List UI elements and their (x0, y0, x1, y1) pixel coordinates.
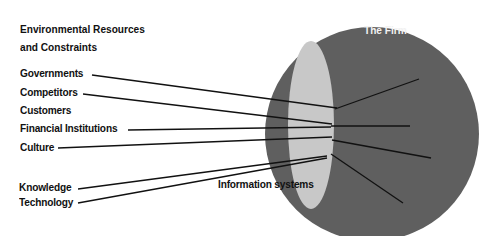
information-systems-label: Information systems (218, 178, 314, 190)
title-line-1: Environmental Resources (20, 20, 145, 38)
label-technology: Technology (19, 196, 73, 208)
label-customers: Customers (20, 104, 71, 116)
title-line-2: and Constraints (20, 38, 145, 56)
label-governments: Governments (20, 67, 83, 79)
label-financial-institutions: Financial Institutions (20, 122, 117, 134)
label-competitors: Competitors (20, 86, 78, 98)
diagram-canvas: Environmental Resources and Constraints … (0, 0, 501, 236)
firm-label: The Firm (364, 24, 407, 36)
label-knowledge: Knowledge (19, 181, 71, 193)
environment-title: Environmental Resources and Constraints (20, 20, 145, 56)
label-culture: Culture (20, 141, 54, 153)
